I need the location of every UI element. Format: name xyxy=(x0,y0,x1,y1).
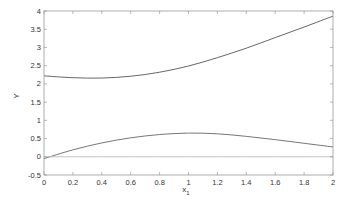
x-tick-label: 0 xyxy=(42,178,46,187)
line-chart: 00.20.40.60.811.21.41.61.82 -0.500.511.5… xyxy=(0,0,352,208)
y-tick-label: 2 xyxy=(37,79,41,88)
series-lower-curve xyxy=(44,133,333,159)
y-tick-label: -0.5 xyxy=(28,171,41,180)
x-tick-label: 0.4 xyxy=(97,178,107,187)
x-tick-label: 1.4 xyxy=(241,178,251,187)
y-axis-ticks: -0.500.511.522.533.54 xyxy=(28,7,333,180)
y-tick-label: 4 xyxy=(37,7,41,16)
x-tick-label: 1.8 xyxy=(299,178,309,187)
series-upper-curve xyxy=(44,16,333,78)
y-axis-label: Y xyxy=(12,93,21,99)
y-tick-label: 2.5 xyxy=(31,61,41,70)
x-axis-ticks: 00.20.40.60.811.21.41.61.82 xyxy=(42,11,335,187)
x-tick-label: 1.6 xyxy=(270,178,280,187)
x-tick-label: 1 xyxy=(186,178,190,187)
axes-frame xyxy=(44,11,333,175)
x-tick-label: 0.8 xyxy=(154,178,164,187)
x-tick-label: 0.6 xyxy=(125,178,135,187)
x-tick-label: 0.2 xyxy=(68,178,78,187)
y-tick-label: 3 xyxy=(37,43,41,52)
x-axis-label-subscript: 1 xyxy=(186,190,190,196)
y-tick-label: 0.5 xyxy=(31,134,41,143)
y-tick-label: 3.5 xyxy=(31,25,41,34)
x-tick-label: 2 xyxy=(331,178,335,187)
y-tick-label: 0 xyxy=(37,152,41,161)
y-tick-label: 1 xyxy=(37,116,41,125)
series-layer xyxy=(44,16,333,158)
x-tick-label: 1.2 xyxy=(212,178,222,187)
y-tick-label: 1.5 xyxy=(31,98,41,107)
